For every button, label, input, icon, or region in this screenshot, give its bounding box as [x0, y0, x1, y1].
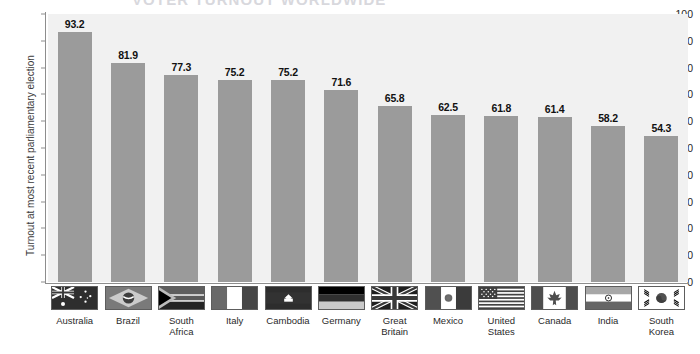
bar[interactable] — [58, 32, 92, 282]
bar-column[interactable] — [538, 14, 572, 282]
plot-area: 93.281.977.375.275.271.665.862.561.861.4… — [48, 14, 688, 282]
bar[interactable] — [271, 80, 305, 282]
bar-value-label: 54.3 — [636, 122, 686, 134]
bar-value-label: 61.8 — [476, 102, 526, 114]
bar[interactable] — [164, 75, 198, 282]
bar-value-label: 75.2 — [263, 66, 313, 78]
bar[interactable] — [111, 63, 145, 282]
bar-value-label: 77.3 — [156, 61, 206, 73]
flag-india-icon — [585, 286, 632, 310]
flag-australia-icon — [51, 286, 98, 310]
flag-great-britain-icon — [371, 286, 418, 310]
bar-value-label: 58.2 — [583, 112, 633, 124]
flag-south-africa-icon — [158, 286, 205, 310]
bar-column[interactable] — [431, 14, 465, 282]
bar[interactable] — [644, 136, 678, 282]
chart-page: VOTER TURNOUT WORLDWIDE Turnout at most … — [0, 0, 700, 354]
bar-value-label: 65.8 — [370, 92, 420, 104]
bar[interactable] — [378, 106, 412, 282]
chart-title: VOTER TURNOUT WORLDWIDE — [132, 0, 386, 8]
bar[interactable] — [484, 116, 518, 282]
bar[interactable] — [538, 117, 572, 282]
bar-column[interactable] — [324, 14, 358, 282]
bar-column[interactable] — [644, 14, 678, 282]
bar-column[interactable] — [378, 14, 412, 282]
flag-brazil-icon — [105, 286, 152, 310]
bar-value-label: 81.9 — [103, 49, 153, 61]
bar-value-label: 75.2 — [210, 66, 260, 78]
flag-italy-icon — [211, 286, 258, 310]
flag-united-states-icon — [478, 286, 525, 310]
bar-value-label: 93.2 — [50, 18, 100, 30]
y-axis-line — [45, 12, 46, 284]
bar-value-label: 71.6 — [316, 76, 366, 88]
bar[interactable] — [591, 126, 625, 282]
category-cell[interactable]: South Korea — [630, 286, 692, 337]
bar-column[interactable] — [218, 14, 252, 282]
bar-value-label: 62.5 — [423, 101, 473, 113]
bar-column[interactable] — [271, 14, 305, 282]
bar-column[interactable] — [484, 14, 518, 282]
x-axis-category-row: Australia Brazil South Africa Italy Camb… — [48, 286, 688, 354]
bar[interactable] — [218, 80, 252, 282]
bar-value-label: 61.4 — [530, 103, 580, 115]
x-axis-line — [45, 283, 689, 284]
flag-mexico-icon — [425, 286, 472, 310]
flag-canada-icon — [531, 286, 578, 310]
flag-germany-icon — [318, 286, 365, 310]
flag-south-korea-icon — [638, 286, 685, 310]
flag-cambodia-icon — [265, 286, 312, 310]
bar-column[interactable] — [164, 14, 198, 282]
y-axis-title: Turnout at most recent parliamentary ele… — [25, 16, 36, 296]
bar-column[interactable] — [591, 14, 625, 282]
bar[interactable] — [431, 115, 465, 283]
country-label: South Korea — [630, 315, 692, 337]
bar-column[interactable] — [58, 14, 92, 282]
bar[interactable] — [324, 90, 358, 282]
